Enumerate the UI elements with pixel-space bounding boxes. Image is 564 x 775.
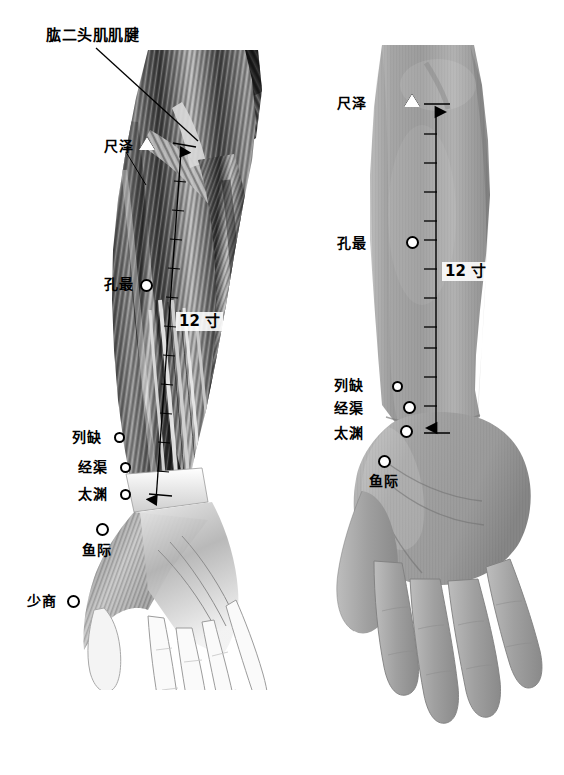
point-label-taiyuan-left: 太渊 [78,487,107,501]
point-label-chize-right: 尺泽 [337,96,366,110]
point-label-lieque-left: 列缺 [72,430,101,444]
point-label-yuji-right: 鱼际 [369,474,398,488]
biceps-tendon-label: 肱二头肌肌腱 [46,28,139,43]
point-label-chize-left: 尺泽 [104,139,133,153]
right-forearm-photo-illustration [330,45,560,735]
point-marker-lieque-right[interactable] [392,381,403,392]
point-marker-chize-left[interactable] [139,137,155,150]
acupoint-figure: 肱二头肌肌腱 12 寸 12 寸 尺泽 孔最 列缺 经渠 太渊 鱼际 少商 尺泽… [0,0,564,775]
cun-label-left: 12 寸 [176,312,223,331]
point-marker-yuji-left[interactable] [96,523,109,536]
point-marker-kongzui-left[interactable] [140,279,153,292]
point-marker-chize-right[interactable] [404,94,420,107]
point-marker-jingqu-right[interactable] [403,401,416,414]
point-marker-lieque-left[interactable] [114,432,125,443]
point-marker-jingqu-left[interactable] [120,462,131,473]
point-label-lieque-right: 列缺 [334,378,363,392]
point-label-jingqu-right: 经渠 [334,401,363,415]
point-label-shaoshang-left: 少商 [27,594,56,608]
left-forearm-anatomy-illustration [30,50,280,690]
point-marker-taiyuan-left[interactable] [120,489,131,500]
point-marker-yuji-right[interactable] [378,455,391,468]
cun-label-right: 12 寸 [442,262,489,281]
point-label-kongzui-left: 孔最 [104,277,133,291]
point-marker-shaoshang-left[interactable] [67,595,80,608]
point-label-yuji-left: 鱼际 [82,543,111,557]
point-label-kongzui-right: 孔最 [337,236,366,250]
point-marker-taiyuan-right[interactable] [400,425,413,438]
point-marker-kongzui-right[interactable] [406,236,419,249]
point-label-jingqu-left: 经渠 [78,460,107,474]
point-label-taiyuan-right: 太渊 [334,426,363,440]
